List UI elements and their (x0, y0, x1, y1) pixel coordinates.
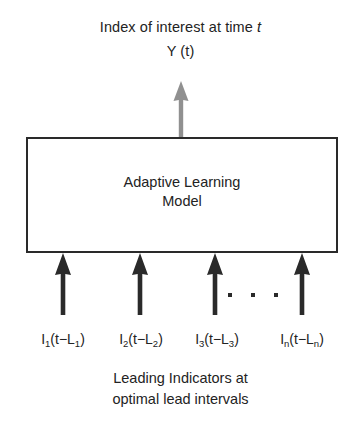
input-label-suffix: ) (80, 331, 85, 347)
ellipsis-dot (274, 293, 278, 297)
input-label-suffix: ) (319, 331, 324, 347)
input-label-subscript-b: 3 (229, 338, 234, 349)
ellipsis-dot (251, 293, 255, 297)
model-box-label-line-2: Model (28, 192, 336, 211)
input-label-subscript-a: n (284, 338, 289, 349)
input-label-subscript-b: n (314, 338, 319, 349)
input-label-subscript-b: 2 (153, 338, 158, 349)
bottom-caption-line-1: Leading Indicators at (0, 368, 361, 389)
input-label-mid: (t−L (128, 331, 153, 347)
output-title-prefix: Index of interest at time (100, 19, 257, 35)
ellipsis-dot (228, 293, 232, 297)
input-label-mid: (t−L (289, 331, 314, 347)
output-title-text: Index of interest at time t (0, 18, 361, 36)
output-symbol-text: Y (t) (0, 42, 361, 60)
input-label-3: I3(t−L3) (174, 331, 260, 349)
input-label-subscript-b: 1 (75, 338, 80, 349)
bottom-caption-line-2: optimal lead intervals (0, 389, 361, 410)
input-label-mid: (t−L (50, 331, 75, 347)
input-up-arrow-icon-2 (130, 253, 150, 315)
input-label-subscript-a: 2 (123, 338, 128, 349)
model-box-label: Adaptive Learning Model (28, 173, 336, 211)
input-up-arrow-icon-3 (205, 253, 225, 315)
input-label-4: In(t−Ln) (259, 331, 345, 349)
adaptive-learning-model-box: Adaptive Learning Model (26, 137, 338, 253)
input-label-1: I1(t−L1) (20, 331, 106, 349)
output-title-variable: t (257, 19, 261, 35)
diagram-canvas: Index of interest at time t Y (t) Adapti… (0, 0, 361, 432)
input-up-arrow-icon-1 (53, 253, 73, 315)
output-up-arrow-icon (170, 80, 192, 138)
input-label-2: I2(t−L2) (98, 331, 184, 349)
input-up-arrow-icon-4 (292, 253, 312, 315)
ellipsis-indicator (228, 290, 278, 300)
input-label-suffix: ) (158, 331, 163, 347)
bottom-caption: Leading Indicators at optimal lead inter… (0, 368, 361, 410)
input-label-suffix: ) (234, 331, 239, 347)
input-label-subscript-a: 1 (45, 338, 50, 349)
model-box-label-line-1: Adaptive Learning (28, 173, 336, 192)
input-label-mid: (t−L (204, 331, 229, 347)
input-label-subscript-a: 3 (199, 338, 204, 349)
